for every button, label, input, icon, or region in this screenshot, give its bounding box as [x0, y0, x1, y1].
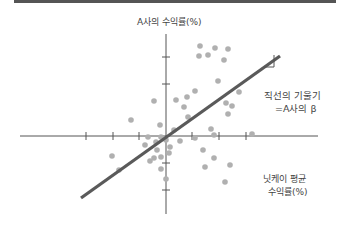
- x-axis-label-line2: 수익률(%): [268, 185, 308, 198]
- data-point: [181, 104, 187, 110]
- data-point: [211, 155, 217, 161]
- y-axis-label: A사의 수익률(%): [137, 15, 202, 28]
- regression-line: [81, 56, 280, 198]
- data-point: [211, 132, 217, 138]
- slope-annotation-line1: 직선의 기울기: [264, 88, 321, 102]
- data-point: [173, 97, 179, 103]
- data-point: [200, 147, 206, 153]
- data-point: [227, 162, 233, 168]
- data-point: [142, 142, 148, 148]
- data-point: [163, 176, 169, 182]
- data-point: [157, 122, 163, 128]
- data-point: [192, 88, 198, 94]
- data-point: [229, 103, 235, 109]
- data-point: [225, 46, 231, 52]
- data-point: [196, 53, 202, 59]
- data-point: [223, 100, 229, 106]
- x-axis-label-line1: 닛케이 평균: [263, 172, 306, 185]
- data-point: [154, 147, 160, 153]
- data-point: [166, 150, 172, 156]
- slope-annotation-line2: =A사의 β: [275, 101, 317, 115]
- data-point: [192, 135, 198, 141]
- data-point: [249, 131, 255, 137]
- data-point: [109, 153, 115, 159]
- data-point: [158, 154, 164, 160]
- data-point: [167, 144, 173, 150]
- data-point: [177, 138, 183, 144]
- data-point: [158, 166, 164, 172]
- data-point: [212, 45, 218, 51]
- data-point: [128, 117, 134, 123]
- data-point: [151, 155, 157, 161]
- data-point: [184, 94, 190, 100]
- data-point: [236, 89, 242, 95]
- data-point: [222, 179, 228, 185]
- data-point: [205, 52, 211, 58]
- data-point: [145, 134, 151, 140]
- data-point: [197, 43, 203, 49]
- data-point: [151, 98, 157, 104]
- data-point: [215, 78, 221, 84]
- data-point: [202, 164, 208, 170]
- data-point: [221, 57, 227, 63]
- data-point: [225, 111, 231, 117]
- data-point: [208, 126, 214, 132]
